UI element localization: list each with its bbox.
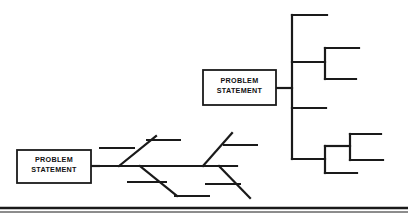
fishbone-box-label-line2: STATEMENT [31,165,77,174]
tree-box-label-line2: STATEMENT [217,86,263,95]
fishbone-box-label-line1: PROBLEM [35,155,73,164]
fishbone-group [91,133,257,198]
rib-upper-right [203,133,232,166]
subtree-upper [325,48,359,79]
tree-group [276,15,383,173]
fishbone-sub-bones [100,140,257,196]
tree-box-label-line1: PROBLEM [220,76,258,85]
tree-problem-statement-box[interactable]: PROBLEM STATEMENT [203,70,276,105]
subtree-lower-right [350,134,383,160]
fishbone-problem-statement-box[interactable]: PROBLEM STATEMENT [17,150,91,183]
diagram-svg: PROBLEM STATEMENT PROBLEM STATEMENT [0,0,408,220]
rib-lower-right [219,166,250,198]
diagram-canvas: PROBLEM STATEMENT PROBLEM STATEMENT [0,0,408,220]
